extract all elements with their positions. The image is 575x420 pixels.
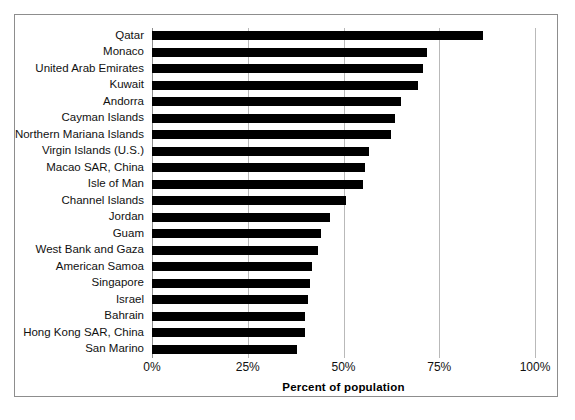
x-tick-label: 0% [143, 360, 160, 374]
bar-row [152, 325, 535, 342]
bar-row [152, 292, 535, 309]
bar [152, 312, 305, 321]
category-label: Cayman Islands [62, 112, 144, 124]
bar-row [152, 243, 535, 260]
bar [152, 64, 423, 73]
bar [152, 114, 395, 123]
bar [152, 130, 391, 139]
bar-row [152, 342, 535, 359]
category-label: Northern Mariana Islands [15, 129, 144, 141]
bar-row [152, 144, 535, 161]
category-label: Virgin Islands (U.S.) [42, 145, 144, 157]
bar [152, 31, 483, 40]
bar-row [152, 78, 535, 95]
category-label: United Arab Emirates [35, 63, 144, 75]
bar [152, 246, 318, 255]
category-label: Hong Kong SAR, China [23, 327, 144, 339]
category-label: Guam [113, 228, 144, 240]
bar-row [152, 61, 535, 78]
bar [152, 279, 310, 288]
category-label: San Marino [85, 343, 144, 355]
category-label: Israel [116, 294, 144, 306]
category-label: West Bank and Gaza [36, 244, 144, 256]
bar-row [152, 111, 535, 128]
category-label: Qatar [115, 30, 144, 42]
bar [152, 229, 321, 238]
bar [152, 48, 427, 57]
category-label: Macao SAR, China [46, 162, 144, 174]
bar [152, 213, 330, 222]
category-label: Channel Islands [62, 195, 144, 207]
category-label: Jordan [109, 211, 144, 223]
category-label: Isle of Man [88, 178, 144, 190]
bar-row [152, 309, 535, 326]
x-axis-tick-labels: 0%25%50%75%100% [0, 360, 575, 378]
bar-row [152, 210, 535, 227]
bar [152, 163, 365, 172]
bar-row [152, 94, 535, 111]
category-label: Singapore [92, 277, 144, 289]
bar [152, 180, 363, 189]
x-tick-label: 25% [236, 360, 260, 374]
bar [152, 81, 418, 90]
bar-row [152, 177, 535, 194]
bar [152, 196, 346, 205]
bar-row [152, 28, 535, 45]
bar [152, 345, 297, 354]
category-label: Bahrain [104, 310, 144, 322]
bar-row [152, 226, 535, 243]
bar-row [152, 127, 535, 144]
category-label: American Samoa [56, 261, 144, 273]
bar [152, 295, 308, 304]
bar [152, 97, 401, 106]
x-tick-label: 75% [427, 360, 451, 374]
bar-row [152, 45, 535, 62]
bar [152, 147, 369, 156]
category-label: Andorra [103, 96, 144, 108]
x-axis-title: Percent of population [152, 381, 535, 393]
x-tick-label: 100% [520, 360, 551, 374]
bar [152, 262, 312, 271]
bar-row [152, 193, 535, 210]
bar [152, 328, 305, 337]
x-tick-label: 50% [331, 360, 355, 374]
bar-chart-figure: QatarMonacoUnited Arab EmiratesKuwaitAnd… [0, 0, 575, 420]
gridline-100pct [535, 28, 536, 358]
bar-row [152, 276, 535, 293]
category-label: Kuwait [109, 79, 144, 91]
category-axis-labels: QatarMonacoUnited Arab EmiratesKuwaitAnd… [0, 28, 148, 358]
bar-row [152, 259, 535, 276]
category-label: Monaco [103, 46, 144, 58]
bars-container [152, 28, 535, 358]
bar-row [152, 160, 535, 177]
plot-area [152, 28, 535, 358]
